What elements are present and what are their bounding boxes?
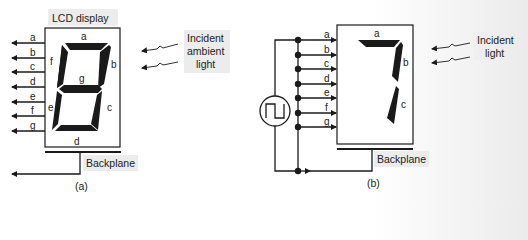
input-label-e: e (30, 91, 36, 102)
input-label-a: a (30, 32, 36, 43)
light-label-b-line2: light (485, 47, 504, 59)
light-rays-a (142, 44, 178, 68)
input-label-b-b: b (324, 44, 330, 55)
light-label-a-line3: light (196, 58, 215, 70)
input-label-g: g (30, 120, 36, 131)
panel-a-input-lines (12, 43, 45, 131)
segment-a (65, 43, 108, 50)
segment-d (55, 125, 98, 131)
input-label-d-b: d (324, 73, 330, 84)
input-label-d: d (30, 76, 36, 87)
segment-label-a: a (81, 31, 87, 42)
light-label-a-line1: Incident (187, 32, 224, 44)
light-label-b-line1: Incident (477, 34, 514, 46)
input-label-c-b: c (324, 58, 329, 69)
segment-label-a-b: a (374, 28, 380, 39)
input-label-f: f (31, 105, 34, 116)
lcd-display-title: LCD display (52, 12, 109, 24)
input-label-c: c (30, 61, 35, 72)
backplane-lead-a (12, 152, 80, 174)
segment-label-b-b: b (403, 57, 409, 68)
segment-label-e: e (48, 102, 54, 113)
segment-label-f: f (50, 56, 53, 67)
panel-b: a b c (260, 25, 518, 189)
segment-label-g: g (79, 73, 85, 84)
segment-label-d: d (74, 136, 80, 147)
lcd-diagram: LCD display a b f g e c d (0, 0, 528, 203)
segment-g (59, 85, 102, 93)
input-label-e-b: e (324, 87, 330, 98)
segment-label-c: c (107, 102, 112, 113)
panel-a: LCD display a b f g e c d (12, 9, 230, 192)
input-label-a-b: a (324, 29, 330, 40)
square-wave-source-icon (260, 96, 290, 126)
light-label-a-line2: ambient (187, 45, 224, 57)
caption-a: (a) (75, 180, 88, 192)
caption-b: (b) (367, 177, 380, 189)
segment-label-b: b (111, 59, 117, 70)
backplane-label-b: Backplane (377, 153, 426, 165)
backplane-label-a: Backplane (86, 157, 135, 169)
input-label-f-b: f (325, 102, 328, 113)
input-label-g-b: g (324, 116, 330, 127)
segment-label-c-b: c (401, 99, 406, 110)
light-rays-b (432, 43, 470, 63)
input-label-b: b (30, 47, 36, 58)
